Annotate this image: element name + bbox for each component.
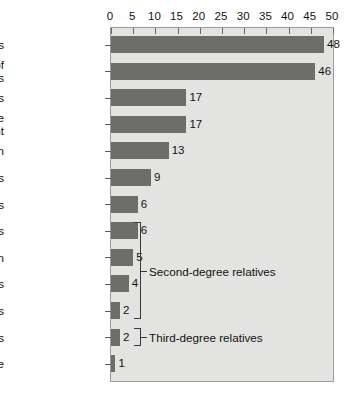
group-bracket-label: Third-degree relatives <box>149 331 263 344</box>
x-tick-label: 20 <box>192 10 205 22</box>
bar <box>111 355 115 372</box>
bar <box>111 329 120 346</box>
x-tick-mark <box>244 28 245 34</box>
bar <box>111 196 138 213</box>
bar <box>111 63 315 80</box>
category-label: Nephews/Nieces <box>0 277 4 290</box>
bar-value-label: 46 <box>318 63 331 80</box>
x-tick-label: 10 <box>148 10 161 22</box>
category-label: Uncles/Aunts <box>0 304 4 317</box>
category-label: Children <box>0 144 4 157</box>
category-label: Siblings <box>0 171 4 184</box>
x-tick-mark <box>311 28 312 34</box>
category-label: First cousins <box>0 331 4 344</box>
bar <box>111 89 186 106</box>
x-tick-label: 5 <box>129 10 136 22</box>
group-bracket <box>134 222 141 320</box>
bar-value-label: 2 <box>123 329 129 346</box>
x-tick-mark <box>266 28 267 34</box>
bar <box>111 142 169 159</box>
category-label: Grandchildren <box>0 251 4 264</box>
category-label: Baseline <box>0 357 4 370</box>
bar-value-label: 2 <box>123 302 129 319</box>
bar-value-label: 1 <box>118 355 124 372</box>
bar <box>111 302 120 319</box>
x-axis-tick-labels: 05101520253035404550 <box>110 10 334 25</box>
bar-value-label: 13 <box>172 142 185 159</box>
category-label: Half siblings <box>0 224 4 237</box>
bar-chart: 05101520253035404550 484617171396654221 … <box>0 0 353 399</box>
bar <box>111 36 324 53</box>
bar-value-label: 17 <box>189 89 202 106</box>
bar-value-label: 6 <box>141 222 147 239</box>
category-label: DZ twins <box>0 91 4 104</box>
category-label: Parents <box>0 198 4 211</box>
bar <box>111 116 186 133</box>
group-bracket <box>134 328 141 346</box>
bar-value-label: 48 <box>327 36 340 53</box>
x-tick-mark <box>333 28 334 34</box>
bar <box>111 249 133 266</box>
x-tick-label: 25 <box>215 10 228 22</box>
x-tick-mark <box>289 28 290 34</box>
x-tick-label: 45 <box>303 10 316 22</box>
bar-value-label: 9 <box>154 169 160 186</box>
x-tick-label: 35 <box>259 10 272 22</box>
bar <box>111 275 129 292</box>
bar-value-label: 17 <box>189 116 202 133</box>
x-tick-label: 30 <box>237 10 250 22</box>
x-tick-mark <box>133 28 134 34</box>
x-tick-label: 15 <box>170 10 183 22</box>
group-bracket-stem <box>141 271 147 272</box>
group-bracket-stem <box>141 337 147 338</box>
x-tick-mark <box>178 28 179 34</box>
x-tick-mark <box>155 28 156 34</box>
x-tick-mark <box>222 28 223 34</box>
x-tick-label: 40 <box>281 10 294 22</box>
x-tick-label: 0 <box>107 10 114 22</box>
category-label: MZ twins <box>0 38 4 51</box>
bar <box>111 169 151 186</box>
category-label: Siblings with one affected parent <box>0 111 4 137</box>
group-bracket-label: Second-degree relatives <box>149 264 276 277</box>
category-label: Offspring of dual matings <box>0 58 4 84</box>
bar-value-label: 6 <box>141 196 147 213</box>
x-tick-label: 50 <box>326 10 339 22</box>
x-tick-mark <box>200 28 201 34</box>
